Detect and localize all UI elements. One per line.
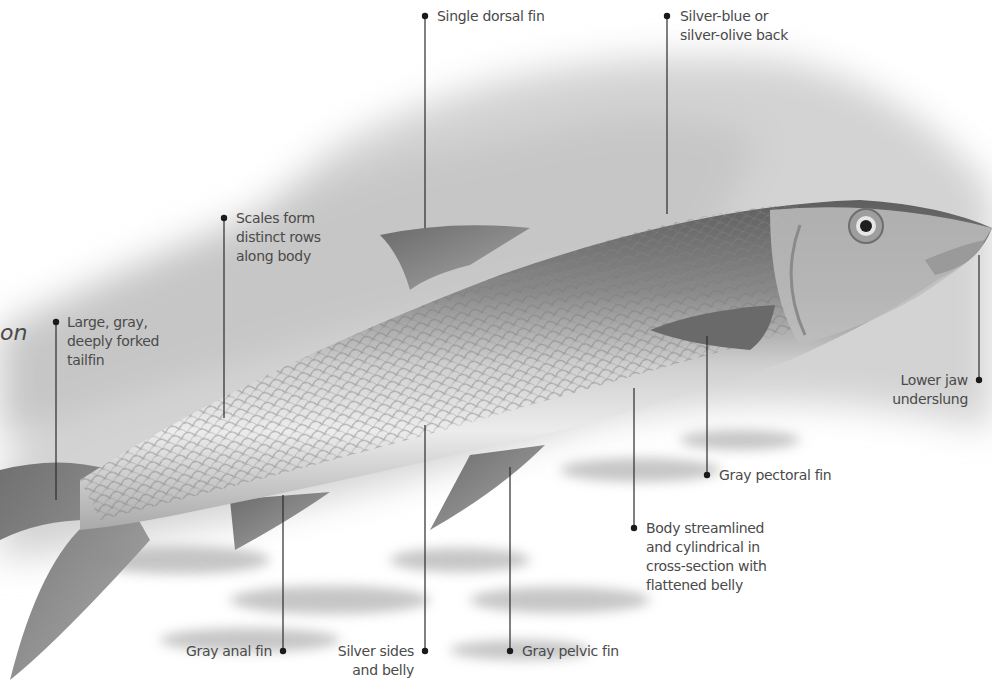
- label-anal-fin: Gray anal fin: [150, 642, 272, 661]
- label-tailfin: Large, gray, deeply forked tailfin: [67, 313, 159, 370]
- label-back: Silver-blue or silver-olive back: [680, 7, 788, 45]
- label-body: Body streamlined and cylindrical in cros…: [646, 519, 767, 595]
- label-silver-sides: Silver sides and belly: [310, 642, 414, 680]
- label-lower-jaw: Lower jaw underslung: [858, 371, 968, 409]
- label-dorsal-fin: Single dorsal fin: [437, 7, 545, 26]
- label-pelvic-fin: Gray pelvic fin: [522, 642, 619, 661]
- label-scales: Scales form distinct rows along body: [236, 209, 321, 266]
- fish-illustration: on Large, gray, deeply forked tailfin Sc…: [0, 0, 992, 691]
- title-fragment: on: [0, 320, 27, 345]
- label-pectoral-fin: Gray pectoral fin: [719, 466, 831, 485]
